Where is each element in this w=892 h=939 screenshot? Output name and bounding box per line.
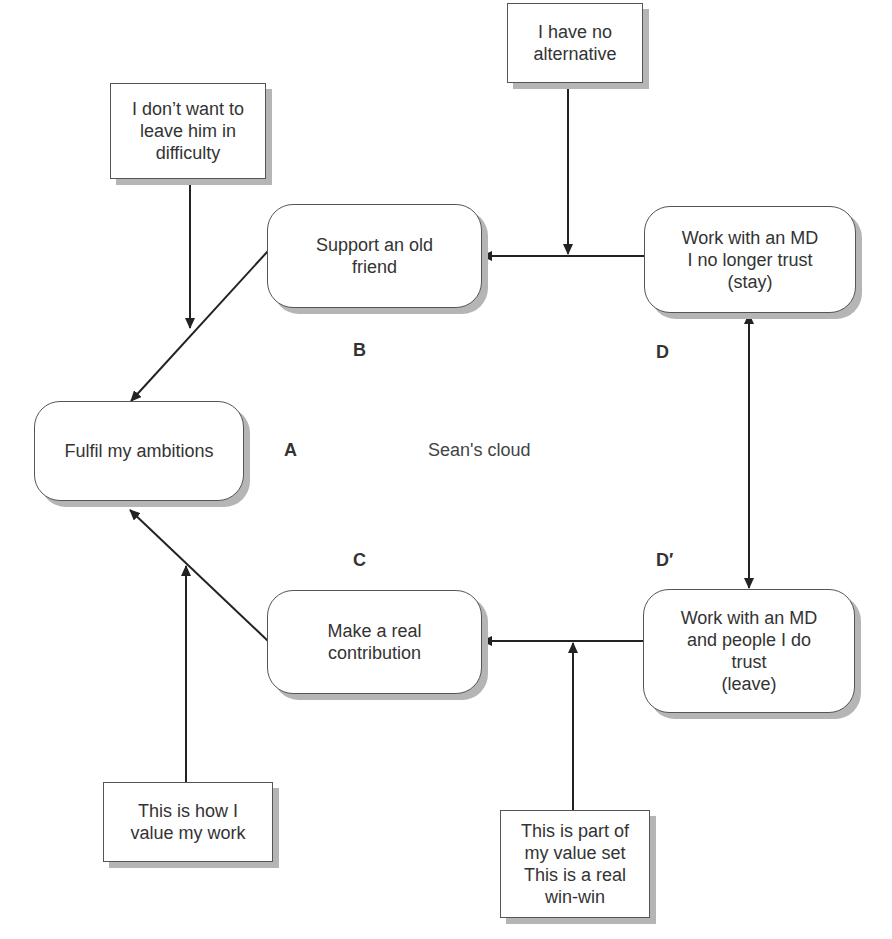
assumption-bd-text: I have no alternative xyxy=(533,21,616,65)
node-d-label: Work with an MD I no longer trust (stay) xyxy=(682,227,819,293)
node-d-prime-label: Work with an MD and people I do trust (l… xyxy=(681,607,818,695)
conflict-cloud-diagram: Fulfil my ambitions Support an old frien… xyxy=(0,0,892,939)
assumption-bd-box: I have no alternative xyxy=(507,3,643,83)
node-b-label: Support an old friend xyxy=(316,234,433,278)
letter-c: C xyxy=(353,550,366,571)
letter-d: D xyxy=(656,342,669,363)
assumption-cdprime-text: This is part of my value set This is a r… xyxy=(521,820,629,908)
node-a-fulfil-ambitions: Fulfil my ambitions xyxy=(34,401,244,501)
arrow-c-to-a xyxy=(130,510,268,641)
assumption-ac-box: This is how I value my work xyxy=(103,782,273,862)
letter-a: A xyxy=(284,440,297,461)
node-c-real-contribution: Make a real contribution xyxy=(267,590,482,694)
node-d-stay: Work with an MD I no longer trust (stay) xyxy=(644,206,856,313)
node-c-label: Make a real contribution xyxy=(327,620,421,664)
arrow-b-to-a xyxy=(131,251,268,401)
assumption-ab-text: I don’t want to leave him in difficulty xyxy=(132,98,244,164)
letter-b: B xyxy=(353,340,366,361)
node-d-prime-leave: Work with an MD and people I do trust (l… xyxy=(643,589,855,713)
node-a-label: Fulfil my ambitions xyxy=(64,440,213,462)
assumption-cdprime-box: This is part of my value set This is a r… xyxy=(500,810,650,918)
assumption-ab-box: I don’t want to leave him in difficulty xyxy=(110,83,266,179)
letter-d-prime: D′ xyxy=(656,550,673,571)
assumption-ac-text: This is how I value my work xyxy=(130,800,245,844)
diagram-title: Sean's cloud xyxy=(428,440,531,461)
node-b-support-friend: Support an old friend xyxy=(267,204,482,308)
